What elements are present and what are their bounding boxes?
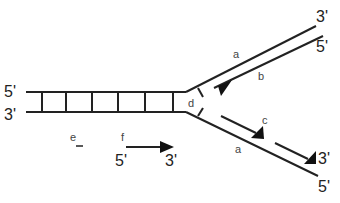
lower-template-5prime-label: 5'	[318, 178, 330, 195]
upper-template-3prime-label: 3'	[316, 8, 328, 25]
lower-arm	[186, 108, 318, 176]
upper-template-strand	[186, 26, 316, 92]
duplex-top-5prime-label: 5'	[4, 83, 16, 100]
lower-template-strand	[186, 112, 318, 176]
replication-fork-diagram: 5' 3' 3' 5' a b d c a 3' 5' e f 5' 3'	[0, 0, 340, 203]
label-d: d	[188, 97, 194, 109]
lower-fragment-3prime-label: 3'	[318, 150, 330, 167]
label-b: b	[258, 70, 264, 82]
label-a-upper: a	[233, 48, 240, 60]
duplex-bottom-3prime-label: 3'	[4, 106, 16, 123]
label-f: f	[121, 131, 125, 143]
upper-new-5prime-label: 5'	[316, 38, 328, 55]
upper-arm	[186, 26, 323, 97]
f-5prime-label: 5'	[115, 152, 127, 169]
label-a-lower: a	[235, 143, 242, 155]
leading-new-strand	[214, 36, 323, 88]
f-3prime-label: 3'	[165, 152, 177, 169]
parental-duplex	[26, 92, 186, 112]
label-e: e	[70, 131, 76, 143]
fork-tick-lower	[198, 108, 203, 116]
fork-tick-upper	[198, 88, 203, 97]
label-c: c	[262, 114, 268, 126]
